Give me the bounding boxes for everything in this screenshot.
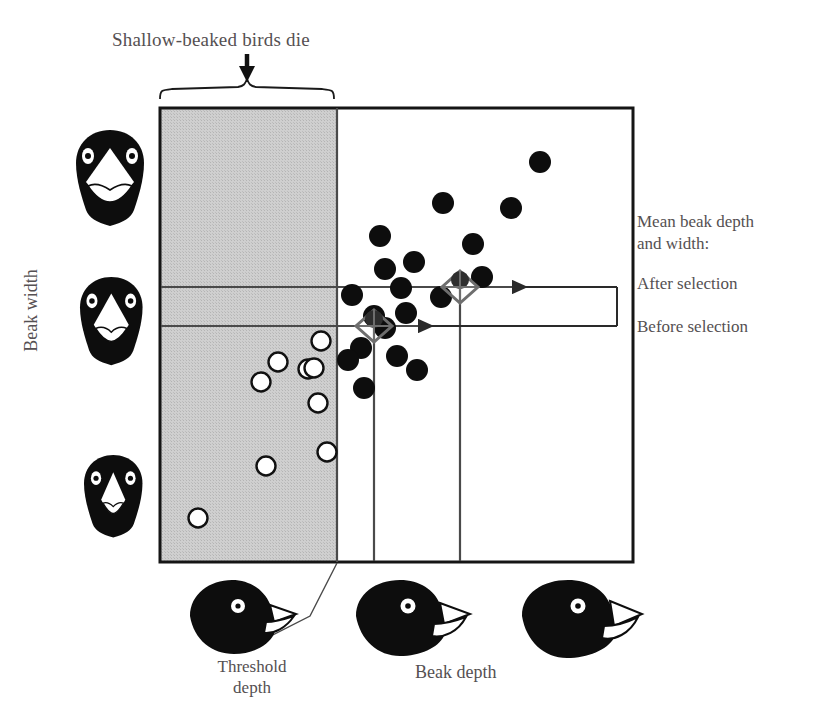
data-point-filled	[353, 377, 375, 399]
bird-profile-shallow-beak-icon	[190, 580, 296, 654]
die-arrow-icon	[239, 54, 255, 82]
shallow-beaked-title: Shallow-beaked birds die	[112, 29, 310, 51]
data-point-filled	[374, 258, 396, 280]
data-point-filled	[462, 233, 484, 255]
y-axis-label: Beak width	[21, 251, 42, 371]
data-point-filled	[341, 284, 363, 306]
data-point-filled	[432, 192, 454, 214]
legend-after-selection: After selection	[637, 274, 738, 294]
shaded-death-region	[160, 108, 337, 562]
legend-heading: Mean beak depth and width:	[637, 211, 754, 255]
data-point-filled	[369, 225, 391, 247]
data-point-filled	[390, 277, 412, 299]
data-point-filled	[337, 349, 359, 371]
data-point-open	[318, 443, 337, 462]
data-point-open	[252, 373, 271, 392]
data-point-open	[269, 353, 288, 372]
data-point-filled	[395, 302, 417, 324]
scatter-points-survivors	[337, 151, 551, 399]
bird-front-medium-beak-icon	[80, 277, 143, 365]
figure-canvas	[0, 0, 827, 718]
legend-before-selection: Before selection	[637, 317, 748, 337]
data-point-open	[312, 332, 331, 351]
bird-profile-medium-beak-icon	[356, 580, 470, 656]
data-point-filled	[529, 151, 551, 173]
x-axis-label: Beak depth	[415, 662, 496, 683]
data-point-filled	[403, 251, 425, 273]
data-point-open	[309, 394, 328, 413]
data-point-filled	[430, 286, 452, 308]
threshold-depth-label: Threshold depth	[192, 656, 312, 699]
data-point-filled	[386, 345, 408, 367]
data-point-filled	[500, 197, 522, 219]
data-point-open	[257, 457, 276, 476]
bird-front-wide-beak-icon	[76, 130, 144, 226]
bird-front-narrow-beak-icon	[84, 455, 142, 538]
data-point-open	[305, 359, 324, 378]
data-point-open	[189, 509, 208, 528]
data-point-filled	[406, 359, 428, 381]
figure-root: Shallow-beaked birds die Beak width Beak…	[0, 0, 827, 718]
bird-profile-deep-beak-icon	[522, 580, 642, 658]
